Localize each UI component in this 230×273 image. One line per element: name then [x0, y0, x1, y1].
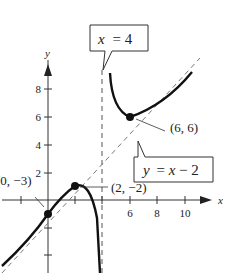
point-2-neg2	[71, 182, 79, 190]
x-tick-label-6: 6	[127, 207, 133, 219]
y-tick-label-6: 6	[36, 111, 42, 123]
y-tick-label-4: 4	[36, 139, 42, 151]
rational-function-graph: 6 8 10 8 6 4 2 x y (0, −3) (2, −2) (6, 6…	[0, 0, 230, 273]
point-6-6	[126, 113, 134, 121]
x-tick-label-8: 8	[154, 207, 160, 219]
svg-text:x = 4: x = 4	[97, 31, 133, 47]
callout-slant-asymptote: y = x − 2	[134, 141, 213, 182]
callout-va-eq: = 4	[112, 31, 132, 47]
callout-va-x: x	[97, 31, 105, 47]
leader-6-6	[136, 119, 165, 131]
y-axis-label: y	[44, 47, 50, 59]
leader-0-neg3	[35, 197, 44, 207]
y-tick-label-2: 2	[36, 167, 42, 179]
curve-right-branch	[110, 72, 192, 117]
svg-text:y = x − 2: y = x − 2	[141, 162, 199, 178]
label-point-0-neg3: (0, −3)	[0, 173, 32, 188]
callout-vertical-asymptote: x = 4	[90, 25, 148, 70]
x-axis-arrow-icon	[200, 196, 212, 204]
y-tick-label-8: 8	[36, 83, 42, 95]
point-0-neg3	[44, 210, 52, 218]
label-point-6-6: (6, 6)	[170, 120, 198, 135]
x-axis-label: x	[217, 194, 223, 206]
curve-left-branch	[2, 185, 100, 273]
y-axis-arrow-icon	[44, 64, 52, 76]
x-tick-label-10: 10	[180, 207, 192, 219]
